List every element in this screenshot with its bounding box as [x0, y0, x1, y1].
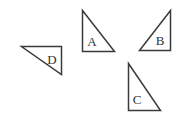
- triangle-c-label: C: [133, 92, 142, 107]
- triangles-figure-canvas: ABCD: [0, 0, 179, 119]
- triangle-d: D: [22, 47, 62, 75]
- triangles-svg: ABCD: [0, 0, 179, 119]
- triangle-a-label: A: [87, 34, 97, 49]
- triangle-c: C: [129, 64, 161, 111]
- triangle-b: B: [140, 11, 171, 51]
- shapes-group: ABCD: [22, 11, 171, 111]
- triangle-d-label: D: [47, 52, 56, 67]
- triangle-b-label: B: [156, 33, 165, 48]
- triangle-a: A: [83, 11, 115, 52]
